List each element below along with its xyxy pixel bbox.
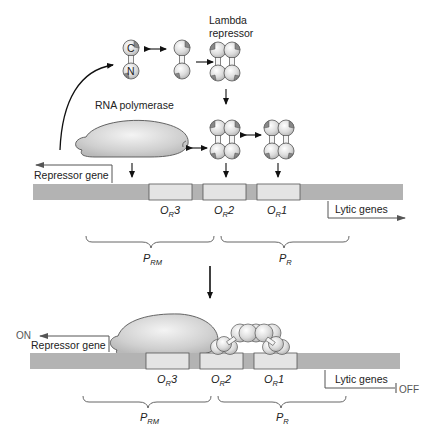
promoter-label-pr-top: PR <box>279 252 292 267</box>
repressor-dimer-or2 <box>210 120 240 159</box>
promoter-label-prm-bottom: PRM <box>140 411 160 426</box>
operator-label-or2: OR2 <box>214 204 234 219</box>
promoter-label-prm-top: PRM <box>143 252 163 267</box>
repressor-dimer-or1 <box>264 120 294 159</box>
lambda-repressor-label-line2: repressor <box>209 27 254 39</box>
operator-or1-top <box>257 184 300 200</box>
bottom-panel: ON Repressor gene Lytic genes OFF OR3 OR… <box>16 314 419 426</box>
lytic-genes-label-bottom: Lytic genes <box>335 373 388 385</box>
repressor-state-on: ON <box>16 330 31 341</box>
repressor-monomer-labeled: C N <box>123 40 139 79</box>
pr-brace-bottom <box>218 396 346 408</box>
n-domain-label: N <box>127 65 135 77</box>
operator-label-or2-bottom: OR2 <box>211 373 231 388</box>
operator-label-or3-bottom: OR3 <box>157 373 178 388</box>
operator-label-or1: OR1 <box>267 204 287 219</box>
operator-label-or1-bottom: OR1 <box>264 373 284 388</box>
prm-brace-top <box>86 236 214 248</box>
repressor-tetramer-bound <box>211 324 290 355</box>
repressor-dimer-free <box>210 42 240 81</box>
lytic-genes-label: Lytic genes <box>335 203 388 215</box>
lambda-repressor-label-line1: Lambda <box>209 14 247 26</box>
operator-or3-top <box>149 184 192 200</box>
pr-brace-top <box>221 236 349 248</box>
operator-or1-bottom <box>254 353 297 369</box>
repressor-monomer <box>174 40 190 79</box>
lytic-state-off: OFF <box>399 384 419 395</box>
prm-brace-bottom <box>83 396 211 408</box>
promoter-label-pr-bottom: PR <box>276 411 289 426</box>
operator-or2-bottom <box>200 353 243 369</box>
operator-or2-top <box>203 184 246 200</box>
rna-polymerase <box>76 120 189 157</box>
c-domain-label: C <box>127 42 135 54</box>
top-panel: Lambda repressor C N RNA polymerase <box>33 14 405 267</box>
lambda-switch-diagram: Lambda repressor C N RNA polymerase <box>0 0 437 438</box>
operator-label-or3: OR3 <box>160 204 181 219</box>
operator-or3-bottom <box>146 353 189 369</box>
repressor-gene-label-bottom: Repressor gene <box>31 339 106 351</box>
repressor-gene-label: Repressor gene <box>34 169 109 181</box>
rna-polymerase-label: RNA polymerase <box>95 99 174 111</box>
rna-polymerase-bound <box>110 314 218 355</box>
